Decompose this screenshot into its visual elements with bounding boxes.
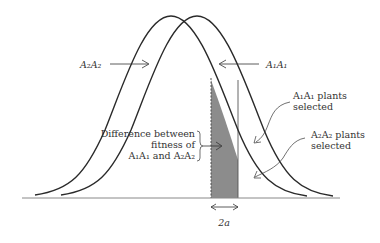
a1a1-selected-label-line1: A₁A₁ plants [292,90,347,101]
difference-label-line1: Difference between [101,128,195,139]
a1a1-selected-arrowhead-icon [254,136,261,143]
fitness-difference-shade [211,80,238,198]
a1a1-label: A₁A₁ [265,59,287,70]
difference-label-line2: fitness of [151,139,196,150]
a2a2-label: A₂A₂ [79,59,102,70]
a1a1-selected-label-line2: selected [293,101,333,112]
a2a2-selected-label-line1: A₂A₂ plants [310,129,365,140]
difference-label-line3: A₁A₁ and A₂A₂ [127,150,195,161]
selection-diagram: A₂A₂ A₁A₁ A₁A₁ plants selected A₂A₂ plan… [0,0,380,243]
difference-brace-icon [197,131,203,161]
a2a2-selected-label-line2: selected [311,140,351,151]
shift-label: 2a [217,217,230,228]
a2a2-selected-arrow [255,138,305,177]
a2a2-distribution-curve [35,16,307,196]
